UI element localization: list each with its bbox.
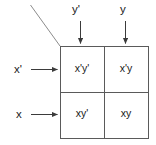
karnaugh-map-diagram: y' y x' x x'y' x'y xy' xy: [0, 0, 156, 145]
corner-leader-line: [31, 5, 61, 46]
grid-cell-x-y-prime: xy': [60, 108, 104, 119]
column-input-label-y: y: [120, 4, 126, 16]
row-input-label-x-prime: x': [14, 64, 22, 76]
grid-cell-x-prime-y-prime: x'y': [60, 63, 104, 74]
column-input-label-y-prime: y': [72, 4, 80, 16]
grid-cell-x-prime-y: x'y: [104, 63, 148, 74]
row-input-label-x: x: [16, 109, 22, 121]
grid-cell-x-y: xy: [104, 108, 148, 119]
